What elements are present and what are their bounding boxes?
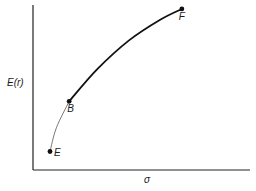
series-line-1	[69, 9, 182, 101]
chart: E(r) σ EBF	[0, 0, 256, 191]
point-label-B: B	[67, 103, 74, 114]
point-label-F: F	[179, 11, 186, 22]
y-axis-label: E(r)	[7, 77, 24, 88]
point-label-E: E	[54, 147, 61, 158]
x-axis-label: σ	[144, 174, 151, 185]
point-E	[48, 149, 53, 154]
